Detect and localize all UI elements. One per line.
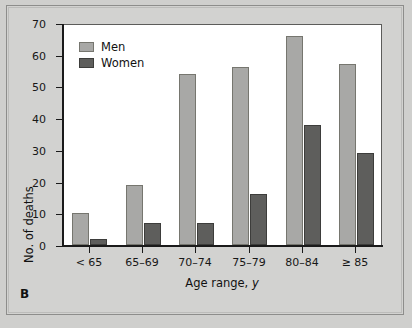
- legend-item-women: Women: [79, 56, 144, 70]
- y-axis-tick-label: 50: [0, 81, 46, 94]
- x-axis-tick: [195, 247, 196, 253]
- bar-men: [339, 64, 356, 245]
- y-axis-tick-label: 40: [0, 113, 46, 126]
- y-axis-tick-label: 70: [0, 18, 46, 31]
- legend-item-men: Men: [79, 40, 144, 54]
- x-axis-title: Age range, y: [62, 276, 382, 290]
- x-axis-tick-label: 80–84: [285, 256, 319, 269]
- x-axis-tick: [142, 247, 143, 253]
- legend-swatch-men: [79, 42, 94, 52]
- bar-men: [286, 36, 303, 245]
- bar-women: [144, 223, 161, 245]
- bar-men: [232, 67, 249, 245]
- x-axis-title-text: Age range,: [185, 276, 248, 290]
- x-axis-title-unit: y: [252, 276, 259, 290]
- x-axis-tick-label: ≥ 85: [342, 256, 369, 269]
- bar-women: [197, 223, 214, 245]
- x-axis-tick: [355, 247, 356, 253]
- x-axis-tick: [249, 247, 250, 253]
- legend-label-women: Women: [101, 56, 144, 70]
- y-axis-title: No. of deaths: [22, 143, 36, 263]
- legend-swatch-women: [79, 58, 94, 68]
- x-axis-line: [62, 245, 383, 247]
- x-axis-tick: [89, 247, 90, 253]
- x-axis-tick-label: 65–69: [125, 256, 159, 269]
- bar-men: [72, 213, 89, 245]
- panel-letter: B: [20, 287, 29, 301]
- x-axis-tick-label: < 65: [76, 256, 103, 269]
- bar-women: [304, 125, 321, 246]
- bar-men: [126, 185, 143, 245]
- legend: Men Women: [79, 40, 144, 72]
- legend-label-men: Men: [101, 40, 125, 54]
- x-axis-tick: [302, 247, 303, 253]
- y-axis-tick-label: 60: [0, 49, 46, 62]
- x-axis-tick-label: 70–74: [178, 256, 212, 269]
- bar-women: [250, 194, 267, 245]
- bar-women: [357, 153, 374, 245]
- figure-panel-b: 010203040506070 < 6565–6970–7475–7980–84…: [0, 0, 412, 328]
- bar-men: [179, 74, 196, 245]
- x-axis-tick-label: 75–79: [232, 256, 266, 269]
- y-axis-line: [62, 24, 64, 247]
